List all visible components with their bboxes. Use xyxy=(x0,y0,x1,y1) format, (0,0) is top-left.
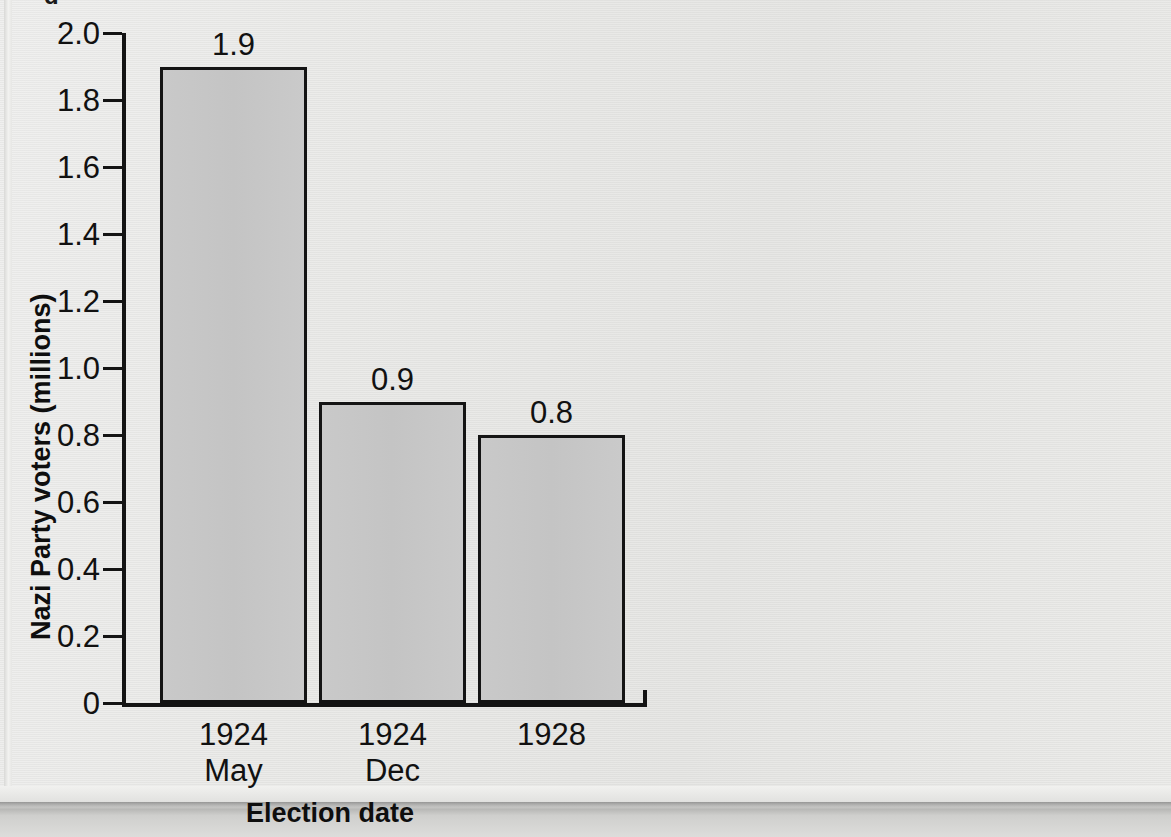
y-axis-title-left: Nazi Party voters (millions) xyxy=(28,293,55,640)
x-axis-category-label: 1924Dec xyxy=(358,717,427,789)
x-axis-category-label: 1928 xyxy=(517,717,586,753)
bar xyxy=(160,67,307,704)
x-axis-category-label: 1924May xyxy=(199,717,268,789)
y-axis-tick xyxy=(103,367,122,370)
bar-value-label: 1.9 xyxy=(212,29,255,60)
y-axis-tick xyxy=(103,32,122,35)
y-axis-tick-label: 1.0 xyxy=(57,353,100,384)
bar-value-label: 0.8 xyxy=(530,397,573,428)
chart-nazi-party-voters: 00.20.40.60.81.01.21.41.61.82.01.91924Ma… xyxy=(0,0,585,837)
category-month: Dec xyxy=(358,753,427,789)
chart-nazi-party-members: 02040608010021920Nov201922Dec551923Nov27… xyxy=(585,0,1171,837)
y-axis-tick xyxy=(103,635,122,638)
y-axis-tick xyxy=(103,300,122,303)
category-year: 1924 xyxy=(199,717,268,752)
y-axis-tick-label: 1.8 xyxy=(57,85,100,116)
y-axis-tick-label: 0 xyxy=(83,688,100,719)
bar xyxy=(319,402,466,704)
x-axis-title-left: Election date xyxy=(246,800,414,827)
x-axis-left xyxy=(122,703,647,707)
y-axis-tick-label: 2.0 xyxy=(57,18,100,49)
y-axis-tick xyxy=(103,568,122,571)
y-axis-tick-label: 0.2 xyxy=(57,621,100,652)
y-axis-tick-label: 0.8 xyxy=(57,420,100,451)
y-axis-tick-label: 0.6 xyxy=(57,487,100,518)
y-axis-tick xyxy=(103,501,122,504)
y-axis-tick xyxy=(103,702,122,705)
y-axis-tick-label: 1.6 xyxy=(57,152,100,183)
y-axis-tick xyxy=(103,434,122,437)
category-month: May xyxy=(199,753,268,789)
y-axis-tick xyxy=(103,99,122,102)
category-year: 1928 xyxy=(517,717,586,752)
y-axis-tick xyxy=(103,233,122,236)
category-year: 1924 xyxy=(358,717,427,752)
bar-value-label: 0.9 xyxy=(371,364,414,395)
y-axis-tick-label: 1.2 xyxy=(57,286,100,317)
y-axis-tick xyxy=(103,166,122,169)
y-axis-left xyxy=(122,33,126,703)
y-axis-tick-label: 0.4 xyxy=(57,554,100,585)
y-axis-tick-label: 1.4 xyxy=(57,219,100,250)
